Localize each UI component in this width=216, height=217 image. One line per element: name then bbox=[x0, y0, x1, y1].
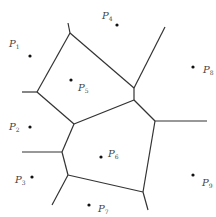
site-point bbox=[99, 155, 102, 158]
site-point bbox=[28, 54, 31, 57]
voronoi-edge bbox=[68, 23, 70, 33]
voronoi-edge bbox=[143, 121, 155, 192]
site-point bbox=[87, 203, 90, 206]
voronoi-edge bbox=[134, 27, 165, 88]
voronoi-edge bbox=[134, 100, 155, 121]
point-label: P5 bbox=[78, 83, 89, 96]
site-point bbox=[28, 125, 31, 128]
voronoi-edge bbox=[62, 124, 74, 152]
point-label: P1 bbox=[9, 39, 20, 52]
voronoi-edge bbox=[143, 192, 148, 210]
site-point bbox=[191, 65, 194, 68]
voronoi-edges bbox=[0, 0, 216, 217]
point-label: P8 bbox=[203, 65, 214, 78]
point-label: P4 bbox=[102, 11, 113, 24]
voronoi-edge bbox=[37, 92, 74, 124]
point-label: P6 bbox=[108, 149, 119, 162]
voronoi-edge bbox=[52, 175, 68, 205]
voronoi-edge bbox=[68, 175, 143, 192]
voronoi-edge bbox=[70, 33, 134, 88]
point-label: P9 bbox=[202, 178, 213, 191]
point-label: P7 bbox=[98, 204, 109, 217]
voronoi-edge bbox=[74, 100, 134, 124]
point-label: P3 bbox=[15, 175, 26, 188]
site-point bbox=[69, 78, 72, 81]
site-point bbox=[191, 173, 194, 176]
voronoi-edge bbox=[62, 152, 68, 175]
voronoi-diagram: P1P2P3P4P5P6P7P8P9 bbox=[0, 0, 216, 217]
site-point bbox=[30, 175, 33, 178]
point-label: P2 bbox=[9, 122, 20, 135]
voronoi-edge bbox=[37, 33, 70, 92]
site-point bbox=[115, 23, 118, 26]
